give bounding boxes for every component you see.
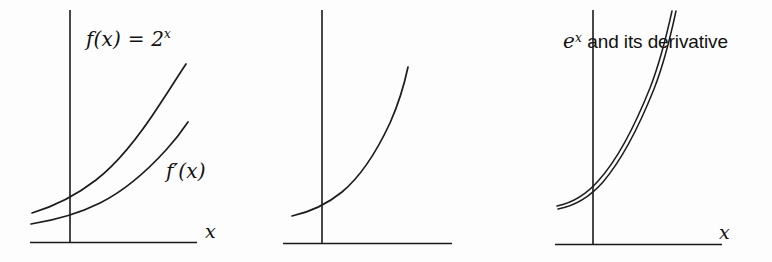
label-f-of-x: f(x) = 2x [86,29,171,49]
panel-e-power-x: ex and its derivative x [258,0,516,262]
panel-middle-plot [258,0,516,262]
exponential-derivative-figure: f(x) = 2x f′(x) x ex and its derivative … [0,0,772,262]
panel-g-of-x-3-power-x: g′(x) g(x) = 3x x [516,0,772,262]
curve-g-prime-of-x [557,11,672,206]
x-axis-label-panel-left: x [205,222,216,241]
label-f-prime-of-x: f′(x) [166,161,206,181]
curve-f-prime-of-x [31,122,188,224]
curve-e-power-x [292,67,408,216]
panel-f-of-x-2-power-x: f(x) = 2x f′(x) x [0,0,258,262]
panel-right-plot [516,0,772,262]
curve-g-of-x [558,11,676,209]
curve-f-of-x [32,64,186,213]
